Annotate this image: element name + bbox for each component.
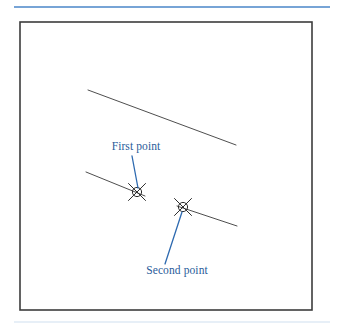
first-point-label: First point (112, 140, 161, 153)
cad-illustration-canvas: First point Second point (0, 0, 337, 328)
figure-root: First point Second point (0, 0, 337, 328)
second-point-label: Second point (146, 264, 208, 277)
